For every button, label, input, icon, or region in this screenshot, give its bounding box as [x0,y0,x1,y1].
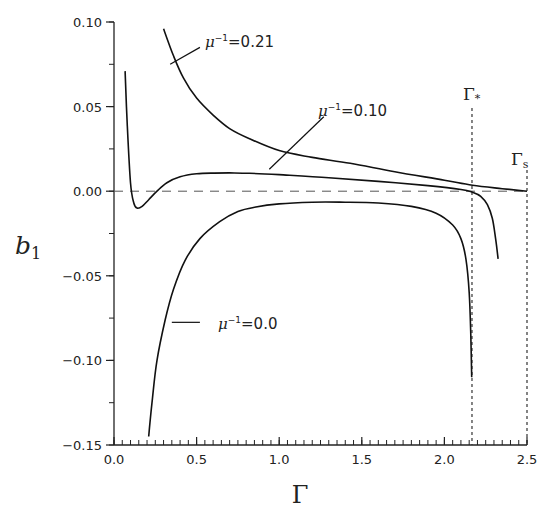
y-tick-label: −0.15 [62,438,102,453]
y-tick-label: 0.00 [73,184,102,199]
x-tick-label: 2.5 [517,452,538,467]
x-tick-label: 1.0 [269,452,290,467]
label-mu-0.21: μ−1=0.21 [205,33,274,51]
gamma-star-label: Γ* [463,84,481,105]
x-tick-label: 2.0 [434,452,455,467]
label-mu-0.0: μ−1=0.0 [218,315,277,333]
curve-μ⁻¹=0.0 [149,202,472,436]
leader-line [170,47,200,64]
x-tick-label: 1.5 [351,452,372,467]
y-tick-label: 0.05 [73,100,102,115]
leader-line [269,117,324,169]
y-tick-label: −0.10 [62,353,102,368]
b1-vs-gamma-chart: 0.100.050.00−0.05−0.10−0.150.00.51.01.52… [0,0,551,516]
y-tick-label: 0.10 [73,15,102,30]
x-tick-label: 0.5 [186,452,207,467]
y-axis-title: b1 [15,231,41,263]
label-leaders [170,47,324,322]
label-mu-0.10: μ−1=0.10 [318,102,387,120]
gamma-s-label: Γs [511,149,529,171]
x-tick-label: 0.0 [104,452,125,467]
x-axis-title: Γ [292,481,309,509]
axes: 0.100.050.00−0.05−0.10−0.150.00.51.01.52… [62,15,537,467]
curve-μ⁻¹=0.10 [125,71,498,259]
y-tick-label: −0.05 [62,269,102,284]
